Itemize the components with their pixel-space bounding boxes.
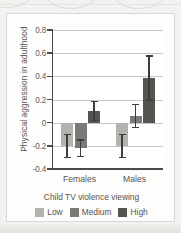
chart-figure: Physical aggression in adulthood 0.80.60…	[6, 13, 175, 222]
error-bar-line	[66, 134, 67, 157]
y-axis-tick	[47, 168, 53, 170]
y-axis-tick	[47, 99, 53, 101]
legend-label: High	[130, 207, 147, 217]
error-bar-cap-lower	[91, 120, 98, 121]
error-bar-line	[135, 105, 136, 128]
error-bar-cap-upper	[77, 139, 84, 140]
x-axis-group-label-females: Females	[50, 174, 110, 184]
y-axis-tick-label: 0.8	[35, 26, 46, 35]
gridline	[53, 146, 163, 147]
scan-bottom-shadow	[0, 224, 181, 233]
y-axis-tick	[47, 145, 53, 147]
y-axis-tick-label: 0.2	[35, 95, 46, 104]
y-axis-tick-label: 0.6	[35, 49, 46, 58]
error-bar-cap-upper	[91, 101, 98, 102]
error-bar-cap-lower	[132, 127, 139, 128]
gridline	[53, 53, 163, 54]
error-bar-cap-upper	[119, 134, 126, 135]
error-bar-cap-lower	[146, 99, 153, 100]
x-axis-line	[53, 168, 163, 170]
y-axis-tick	[47, 76, 53, 78]
legend-item-high: High	[118, 207, 147, 217]
x-axis-title: Child TV violence viewing	[7, 192, 176, 202]
error-bar-cap-lower	[64, 157, 71, 158]
error-bar-cap-upper	[64, 134, 71, 135]
legend-swatch-low-icon	[35, 208, 44, 217]
error-bar-line	[121, 134, 122, 157]
scanned-page-background: Physical aggression in adulthood 0.80.60…	[0, 0, 181, 233]
y-axis-tick	[47, 122, 53, 124]
gridline	[53, 30, 163, 31]
error-bar-cap-upper	[132, 104, 139, 105]
y-axis-tick-label: 0.4	[35, 72, 46, 81]
chart-legend: LowMediumHigh	[7, 207, 176, 217]
error-bar-cap-upper	[146, 55, 153, 56]
y-axis-tick-label: 0	[42, 118, 46, 127]
y-axis-tick-labels: 0.80.60.40.20-0.2-0.4	[21, 30, 46, 169]
legend-label: Low	[47, 207, 62, 217]
x-axis-group-label-males: Males	[105, 174, 165, 184]
error-bar-cap-lower	[119, 157, 126, 158]
legend-item-medium: Medium	[70, 207, 112, 217]
legend-swatch-medium-icon	[70, 208, 79, 217]
plot-area	[52, 30, 163, 169]
error-bar-line	[93, 102, 94, 121]
y-axis-tick	[47, 29, 53, 31]
y-axis-tick-label: -0.4	[33, 165, 46, 174]
legend-swatch-high-icon	[118, 208, 127, 217]
scan-edge-line	[0, 4, 181, 5]
legend-item-low: Low	[35, 207, 62, 217]
error-bar-line	[80, 140, 81, 156]
y-axis-tick-label: -0.2	[33, 141, 46, 150]
legend-label: Medium	[82, 207, 112, 217]
y-axis-tick	[47, 52, 53, 54]
error-bar-cap-lower	[77, 156, 84, 157]
error-bar-line	[148, 56, 149, 100]
